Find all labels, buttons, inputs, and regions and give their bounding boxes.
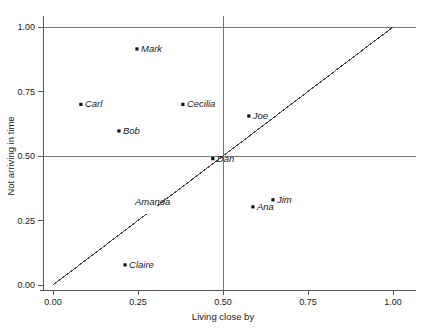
- y-tick-label: 0.75: [11, 87, 35, 97]
- data-point-marker: [79, 103, 82, 106]
- x-tick-label: 0.25: [129, 297, 147, 307]
- y-tick-label: 0.25: [11, 216, 35, 226]
- y-axis-title: Not arriving in time: [5, 116, 16, 195]
- data-point-marker: [181, 103, 184, 106]
- identity-line-segment: [53, 214, 147, 285]
- identity-line-segment: [157, 27, 393, 206]
- x-axis-title: Living close by: [192, 311, 254, 322]
- data-point-marker: [211, 157, 214, 160]
- x-tick-label: 0.75: [299, 297, 317, 307]
- data-point-marker: [271, 198, 274, 201]
- data-point-marker: [123, 263, 126, 266]
- axis-lines: [40, 16, 416, 290]
- x-tick-label: 0.50: [214, 297, 232, 307]
- y-tick-label: 1.00: [11, 22, 35, 32]
- plot-canvas: [0, 0, 428, 331]
- scatter-plot-figure: 0.000.250.500.751.00 0.000.250.500.751.0…: [0, 0, 428, 331]
- data-point-marker: [247, 114, 250, 117]
- data-point-marker: [117, 129, 120, 132]
- data-point-marker: [135, 47, 138, 50]
- gridlines: [43, 16, 416, 290]
- y-tick-label: 0.00: [11, 280, 35, 290]
- x-tick-label: 0.00: [44, 297, 62, 307]
- data-points: [79, 47, 274, 266]
- data-point-marker: [251, 205, 254, 208]
- x-tick-label: 1.00: [384, 297, 402, 307]
